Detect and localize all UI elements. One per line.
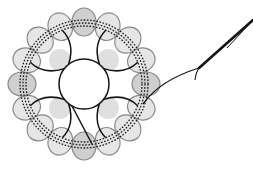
tail-tip (227, 20, 253, 48)
inner-lobe (49, 97, 71, 119)
outer-orbital-lobes (8, 8, 160, 160)
inner-lobe (49, 49, 71, 71)
orbital-lobe (72, 132, 96, 160)
inner-lobe (97, 49, 119, 71)
inner-lobe (97, 97, 119, 119)
orbital-lobe (132, 72, 160, 96)
tail-hook (195, 68, 199, 80)
tail-thick-segment (199, 20, 253, 68)
orbital-lobe (8, 72, 36, 96)
orbital-ring-diagram (0, 0, 253, 194)
orbital-lobe (72, 8, 96, 36)
inner-ring (59, 59, 109, 109)
tail-chain (143, 20, 253, 104)
